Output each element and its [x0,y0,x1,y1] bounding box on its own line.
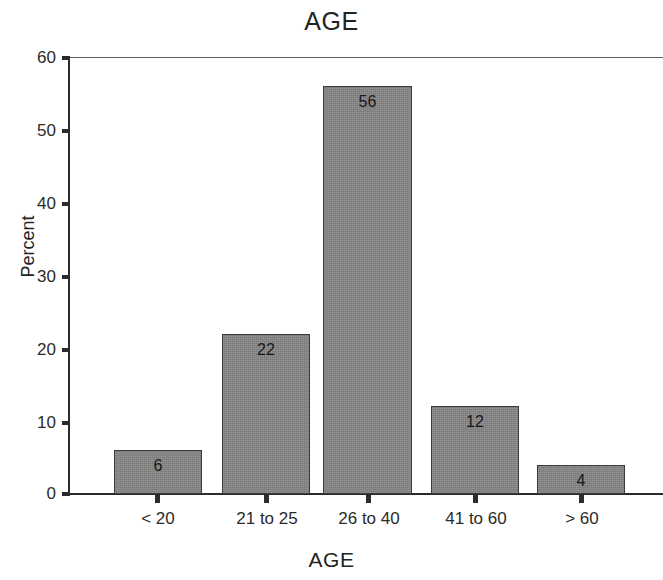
x-axis-tick [366,495,371,503]
bar-value-label: 56 [324,93,411,111]
bar-chart-figure: AGE Percent 60 50 40 30 20 10 0 6 22 56 … [0,0,663,580]
x-axis-tick [264,495,269,503]
x-axis-tick [473,495,478,503]
y-axis-tick-label: 0 [10,485,56,502]
y-axis-tick [62,275,70,279]
y-axis-tick-label: 10 [10,414,56,431]
chart-title: AGE [0,6,663,36]
y-axis-tick [62,202,70,206]
x-axis-tick-label: > 60 [507,509,657,529]
bar[interactable]: 22 [222,334,310,494]
bar[interactable]: 6 [114,450,202,494]
bar-value-label: 22 [223,341,309,359]
y-axis-tick-label: 20 [10,341,56,358]
y-axis-tick-label: 60 [10,49,56,66]
bar[interactable]: 56 [323,86,412,494]
bar[interactable]: 4 [537,465,625,494]
x-axis-tick [579,495,584,503]
bar[interactable]: 12 [431,406,519,494]
bar-value-label: 12 [432,413,518,431]
x-axis-tick [155,495,160,503]
bar-value-label: 6 [115,457,201,475]
plot-top-rule [68,57,663,58]
y-axis-tick-label: 50 [10,122,56,139]
y-axis-tick [62,56,70,60]
y-axis-tick [62,492,70,496]
y-axis-tick [62,129,70,133]
y-axis-tick-label: 40 [10,195,56,212]
y-axis-tick-label: 30 [10,268,56,285]
y-axis-tick [62,348,70,352]
x-axis-title: AGE [0,547,663,573]
y-axis-tick [62,421,70,425]
bar-value-label: 4 [538,472,624,490]
